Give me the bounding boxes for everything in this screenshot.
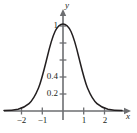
plot-canvas (0, 0, 137, 133)
y-axis-arrow-icon (60, 9, 66, 16)
y-tick-label-0-4: 0.4 (38, 72, 58, 81)
y-axis-label: y (65, 1, 69, 10)
x-tick-label-2: 2 (96, 116, 114, 125)
x-tick-label-1: 1 (75, 116, 93, 125)
x-tick-label-minus-1: −1 (32, 116, 53, 125)
y-tick-label-0-2: 0.2 (38, 89, 58, 98)
bell-curve-figure: y x 1 0.4 0.2 −2 −1 1 2 (0, 0, 137, 133)
y-tick-label-1: 1 (44, 21, 58, 30)
x-tick-label-minus-2: −2 (11, 116, 32, 125)
x-axis-label: x (126, 112, 130, 121)
